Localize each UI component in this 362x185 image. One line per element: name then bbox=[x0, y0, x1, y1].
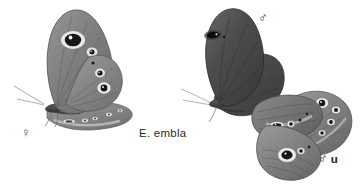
label-male-underside-symbol: ♂ bbox=[318, 151, 328, 166]
specimen-plate bbox=[0, 0, 362, 185]
label-male-underside: ♂u bbox=[318, 152, 338, 166]
label-male-symbol: ♂ bbox=[258, 11, 268, 24]
female-forewing-ocellus-large bbox=[61, 31, 85, 49]
female-hw-ocellus-1 bbox=[91, 61, 94, 64]
female-hw-ocellus-2 bbox=[95, 69, 105, 78]
female-hw-ocellus-3 bbox=[97, 82, 110, 94]
label-species-name: E. embla bbox=[139, 128, 186, 140]
label-female-symbol: ♀ bbox=[21, 126, 31, 139]
butterfly-plate-svg bbox=[0, 0, 362, 185]
label-male-underside-suffix: u bbox=[331, 153, 338, 165]
